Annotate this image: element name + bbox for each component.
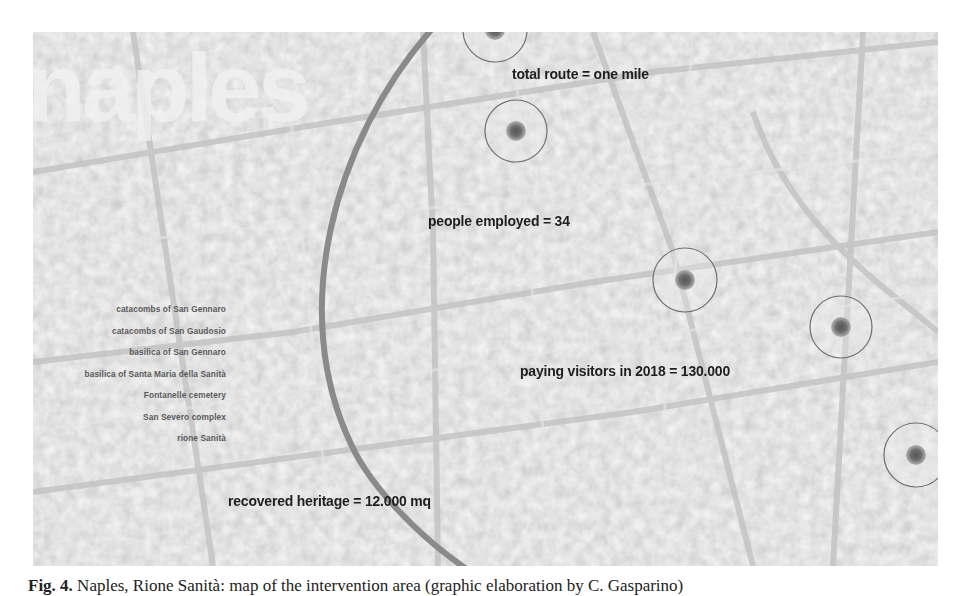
site-item: basilica of San Gennaro — [85, 342, 226, 364]
stat-recovered-heritage: recovered heritage = 12.000 mq — [228, 492, 431, 510]
stat-total-route: total route = one mile — [512, 65, 649, 83]
map-title: naples — [33, 40, 307, 136]
figure-caption: Fig. 4. Naples, Rione Sanità: map of the… — [28, 576, 683, 596]
aerial-map: naples total route = one mile people emp… — [33, 32, 938, 566]
stat-people-employed: people employed = 34 — [428, 212, 570, 230]
site-item: catacombs of San Gennaro — [85, 299, 226, 321]
caption-text: Naples, Rione Sanità: map of the interve… — [73, 576, 683, 595]
site-item: Fontanelle cemetery — [85, 385, 226, 407]
site-item: catacombs of San Gaudosio — [85, 321, 226, 343]
site-item: rione Sanità — [85, 428, 226, 450]
site-item: basilica of Santa Maria della Sanità — [85, 364, 226, 386]
stat-paying-visitors: paying visitors in 2018 = 130.000 — [520, 362, 730, 380]
caption-label: Fig. 4. — [28, 576, 73, 595]
site-list: catacombs of San Gennaro catacombs of Sa… — [85, 299, 226, 450]
site-item: San Severo complex — [85, 407, 226, 429]
